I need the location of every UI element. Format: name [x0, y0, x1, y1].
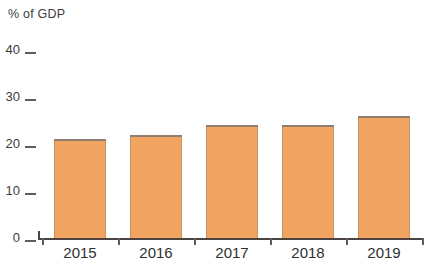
y-axis-tick-40: 40 — [0, 42, 40, 58]
y-axis-tick-dash — [25, 146, 36, 148]
bar-texture — [282, 127, 334, 238]
bar-texture — [358, 118, 410, 238]
x-axis-label-2018: 2018 — [270, 244, 346, 261]
bar-edge — [54, 141, 55, 238]
bar-edge — [206, 127, 207, 238]
bar-chart: % of GDP 40 30 20 10 0 — [0, 0, 426, 268]
y-axis-tick-dash — [25, 99, 36, 101]
y-axis-tick-label: 10 — [6, 183, 20, 199]
bar-edge — [130, 137, 131, 238]
y-axis-tick-label: 40 — [6, 42, 20, 58]
x-axis-label-2017: 2017 — [194, 244, 270, 261]
x-axis-label-2019: 2019 — [346, 244, 422, 261]
bar-edge — [181, 137, 182, 238]
bar-texture — [54, 141, 106, 238]
bar-2019 — [358, 116, 410, 238]
y-axis-tick-20: 20 — [0, 136, 40, 152]
bar-edge — [358, 118, 359, 238]
bar-edge — [105, 141, 106, 238]
y-axis-tick-0: 0 — [0, 230, 40, 246]
plot-area: 40 30 20 10 0 — [0, 0, 426, 268]
bar-edge — [333, 127, 334, 238]
y-axis-tick-label: 0 — [13, 230, 20, 246]
y-axis-tick-label: 30 — [6, 89, 20, 105]
x-axis-line — [38, 238, 422, 240]
bar-edge — [282, 127, 283, 238]
bar-edge — [409, 118, 410, 238]
bar-2016 — [130, 135, 182, 238]
x-axis-label-2016: 2016 — [118, 244, 194, 261]
y-axis-tick-dash — [25, 52, 36, 54]
bar-2015 — [54, 139, 106, 238]
bar-2018 — [282, 125, 334, 238]
bar-texture — [130, 137, 182, 238]
x-axis-tick — [422, 238, 424, 245]
bar-2017 — [206, 125, 258, 238]
bar-edge — [257, 127, 258, 238]
y-axis-tick-10: 10 — [0, 183, 40, 199]
y-axis-tick-dash — [25, 193, 36, 195]
bar-texture — [206, 127, 258, 238]
x-axis-label-2015: 2015 — [42, 244, 118, 261]
y-axis-tick-dash — [25, 240, 36, 242]
y-axis-tick-label: 20 — [6, 136, 20, 152]
y-axis-tick-30: 30 — [0, 89, 40, 105]
